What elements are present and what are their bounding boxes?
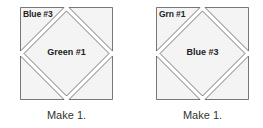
block-2-caption: Make 1. bbox=[156, 109, 249, 121]
corner-fabric-label: Blue #3 bbox=[23, 9, 53, 19]
quilt-block-2: Grn #1 Blue #3 bbox=[156, 7, 249, 100]
center-fabric-label: Blue #3 bbox=[156, 47, 249, 57]
quilt-block-1: Blue #3 Green #1 bbox=[20, 7, 113, 100]
corner-fabric-label: Grn #1 bbox=[159, 9, 185, 19]
block-1-caption: Make 1. bbox=[20, 109, 113, 121]
center-fabric-label: Green #1 bbox=[20, 47, 113, 57]
